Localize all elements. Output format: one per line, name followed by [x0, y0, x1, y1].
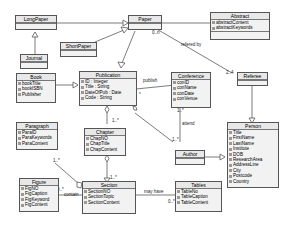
attribute-icon — [229, 169, 232, 172]
class-name: Abstract — [211, 13, 269, 20]
attribute-icon — [229, 158, 232, 161]
attribute: ParaContent — [17, 141, 57, 146]
class-paper[interactable]: Paper — [128, 15, 162, 30]
attribute-icon — [229, 175, 232, 178]
attribute-icon — [81, 80, 84, 83]
uml-class-diagram: 0..n refered by 2..4 publish * 1..* atte… — [0, 0, 295, 227]
attribute-icon — [229, 148, 232, 151]
class-name: Paragraph — [17, 123, 57, 130]
attribute-icon — [84, 201, 87, 204]
class-tables[interactable]: Tables TableNo TableCaption TableContent — [175, 181, 222, 212]
class-name: Paper — [129, 16, 161, 23]
attribute: SectionContent — [83, 200, 135, 205]
attribute-icon — [212, 27, 215, 30]
attribute-icon — [229, 164, 232, 167]
assoc-label-refered-by: refered by — [181, 42, 201, 47]
attribute-icon — [229, 137, 232, 140]
class-name: Figure — [20, 179, 58, 186]
class-name: Section — [83, 182, 135, 189]
class-name: Conference — [172, 73, 210, 80]
attribute-icon — [18, 137, 21, 140]
mult-label: 1..* — [53, 158, 60, 163]
attribute-icon — [18, 93, 21, 96]
class-referee[interactable]: Referee — [237, 72, 268, 86]
mult-label: 1..* — [110, 175, 117, 180]
class-paragraph[interactable]: Paragraph ParaID ParaKeywords ParaConten… — [16, 122, 58, 150]
class-figure[interactable]: Figure FigNO FigCaption FigKeyword FigCo… — [19, 178, 59, 212]
class-section[interactable]: Section SectionNO SectionTopic SectionCo… — [82, 181, 136, 214]
attribute-icon — [18, 142, 21, 145]
attribute-icon — [86, 148, 89, 151]
class-chapter[interactable]: Chapter ChapNO ChapTitle ChapContent — [84, 128, 126, 156]
attribute: Country — [228, 179, 278, 184]
attribute-icon — [18, 82, 21, 85]
attribute-icon — [173, 81, 176, 84]
class-shortpaper[interactable]: ShortPaper — [60, 42, 97, 57]
class-name: Chapter — [85, 129, 125, 136]
mult-label: 0..n — [152, 30, 160, 35]
attribute-icon — [229, 131, 232, 134]
attribute: Code : String — [80, 95, 136, 100]
attribute-icon — [177, 190, 180, 193]
class-author[interactable]: Author — [175, 150, 205, 165]
class-conference[interactable]: Conference conID conName conDate conVenu… — [171, 72, 211, 108]
class-name: Journal — [21, 55, 47, 62]
assoc-label-contain: contain — [64, 192, 79, 197]
class-abstract[interactable]: Abstract abstractContent abstractKeyword… — [210, 12, 270, 40]
mult-label: 0..* — [168, 199, 175, 204]
attribute-icon — [173, 98, 176, 101]
attribute: ChapContent — [85, 147, 125, 152]
attribute-icon — [86, 143, 89, 146]
class-name: Author — [176, 151, 204, 158]
class-book[interactable]: Book bookTitle bookISBN Publisher — [16, 73, 56, 103]
class-longpaper[interactable]: LongPaper — [15, 15, 57, 30]
attribute-icon — [229, 153, 232, 156]
class-name: Person — [228, 123, 278, 130]
attribute: FigContent — [20, 202, 58, 207]
mult-label: 1..* — [172, 137, 179, 142]
assoc-label-publish: publish — [143, 78, 157, 83]
class-name: LongPaper — [16, 16, 56, 23]
attribute-icon — [86, 137, 89, 140]
assoc-label-may-have: may have — [144, 189, 164, 194]
attribute-icon — [81, 86, 84, 89]
class-name: ShortPaper — [61, 43, 96, 50]
class-name: Book — [17, 74, 55, 81]
attribute-icon — [21, 187, 24, 190]
attribute-icon — [229, 180, 232, 183]
class-publication[interactable]: Publication ID : Integer Title : String … — [79, 71, 137, 106]
attribute: conVenue — [172, 96, 210, 101]
attribute-icon — [177, 196, 180, 199]
attribute-icon — [21, 204, 24, 207]
class-journal[interactable]: Journal — [20, 54, 48, 69]
attribute-icon — [84, 190, 87, 193]
attribute-icon — [81, 91, 84, 94]
attribute-icon — [173, 87, 176, 90]
attribute-icon — [229, 142, 232, 145]
attribute-icon — [21, 198, 24, 201]
mult-label: * — [139, 92, 141, 97]
mult-label: 1..* — [177, 108, 184, 113]
attribute-icon — [81, 97, 84, 100]
attribute-icon — [84, 196, 87, 199]
class-name: Referee — [238, 73, 267, 80]
attribute-icon — [173, 92, 176, 95]
class-person[interactable]: Person Title FirstName LastName Institut… — [227, 122, 279, 188]
mult-label: 1..* — [112, 118, 119, 123]
attribute: Publisher — [17, 92, 55, 97]
attribute-icon — [21, 193, 24, 196]
attribute-icon — [177, 201, 180, 204]
attribute-icon — [18, 131, 21, 134]
assoc-label-attend: attend — [182, 121, 195, 126]
attribute-icon — [212, 21, 215, 24]
attribute-icon — [18, 88, 21, 91]
attribute: TableContent — [176, 200, 221, 205]
mult-label: 2..4 — [226, 70, 234, 75]
class-name: Publication — [80, 72, 136, 79]
class-name: Tables — [176, 182, 221, 189]
